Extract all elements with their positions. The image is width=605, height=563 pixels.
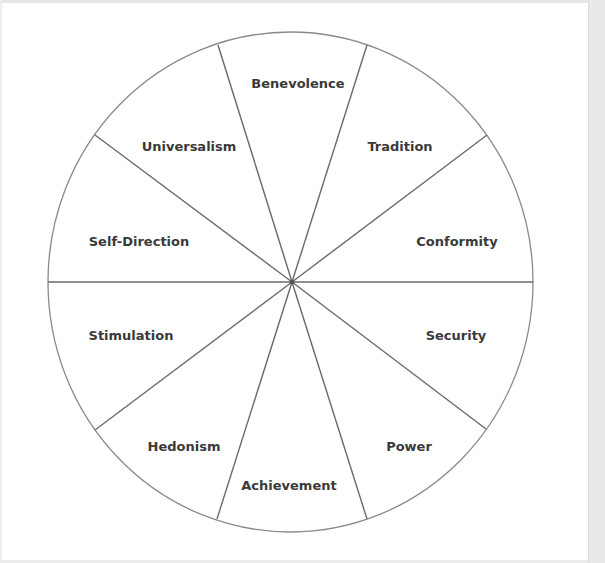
segment-benevolence: Benevolence	[251, 76, 344, 91]
segment-conformity: Conformity	[416, 234, 498, 249]
segment-stimulation: Stimulation	[89, 328, 174, 343]
wheel-center-dot	[290, 280, 294, 284]
segment-achievement: Achievement	[241, 478, 336, 493]
segment-universalism: Universalism	[142, 139, 237, 154]
segment-security: Security	[426, 328, 487, 343]
value-wheel-diagram: Benevolence Tradition Conformity Securit…	[0, 0, 605, 563]
segment-hedonism: Hedonism	[148, 439, 221, 454]
segment-tradition: Tradition	[367, 139, 432, 154]
segment-power: Power	[386, 439, 432, 454]
segment-self-direction: Self-Direction	[89, 234, 190, 249]
